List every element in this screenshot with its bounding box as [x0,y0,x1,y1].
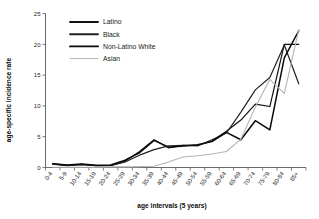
x-axis-title: age intervals (5 years) [137,202,206,210]
legend-label-latino: Latino [103,18,122,25]
y-axis-title: age-specific incidence rate [5,58,13,143]
legend-label-black: Black [103,31,120,38]
y-tick-label: 20 [34,42,41,48]
y-tick-label: 15 [34,72,41,78]
legend-label-asian: Asian [103,55,120,62]
y-tick-label: 25 [34,11,41,17]
chart-container: 0510152025 0-45-910-1415-1920-2425-2930-… [0,0,319,219]
y-tick-label: 10 [34,103,41,109]
line-chart: 0510152025 0-45-910-1415-1920-2425-2930-… [0,0,319,219]
legend-label-non-latino-white: Non-Latino White [103,43,156,50]
